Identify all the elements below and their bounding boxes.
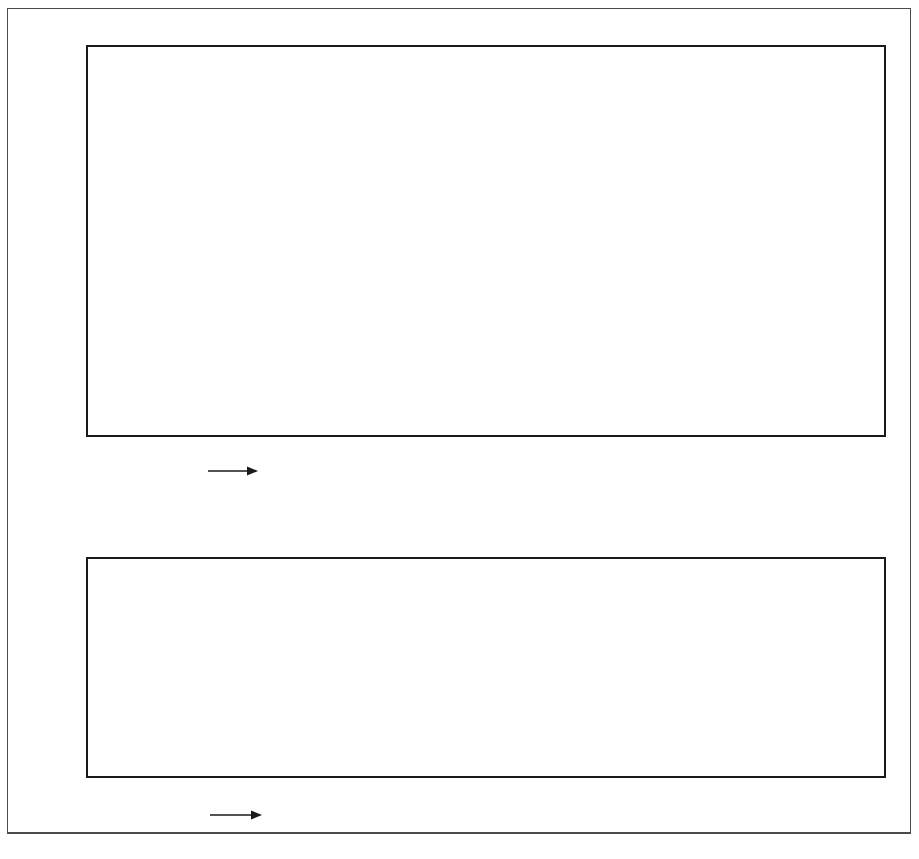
bottom-chart [87,558,885,820]
top-chart [87,46,885,476]
arrow-right-icon [208,467,258,476]
top-chart-plot-area [87,46,885,436]
bottom-chart-plot-area [87,558,885,777]
arrow-right-icon [210,811,262,820]
figure [0,0,919,859]
